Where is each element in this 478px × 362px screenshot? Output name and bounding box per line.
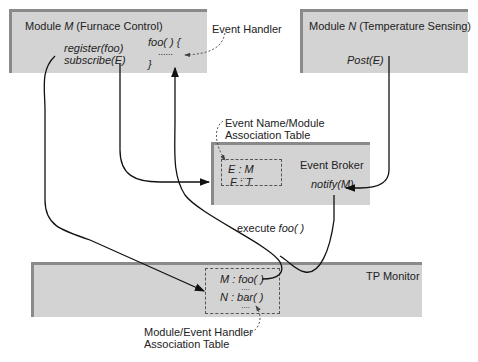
handler-table-pointer bbox=[244, 306, 260, 336]
register-arrow bbox=[44, 56, 204, 291]
event-handler-pointer bbox=[185, 33, 225, 55]
post-arrow bbox=[346, 56, 389, 188]
event-table-pointer bbox=[216, 121, 225, 160]
notify-arrow bbox=[280, 195, 334, 272]
subscribe-arrow bbox=[120, 64, 209, 182]
execute-arrow bbox=[175, 68, 282, 279]
connector-arrows bbox=[0, 0, 478, 362]
